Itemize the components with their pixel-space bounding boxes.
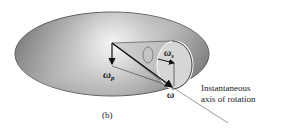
axis-label-line2: axis of rotation: [201, 94, 256, 104]
axis-label-line1: Instantaneous: [201, 83, 251, 93]
figure-caption: (b): [102, 110, 113, 120]
precession-diagram: ωp ωs ω Instantaneous axis of rotation (…: [0, 0, 282, 133]
cone-base: [157, 41, 193, 89]
omega-label: ω: [167, 89, 174, 100]
